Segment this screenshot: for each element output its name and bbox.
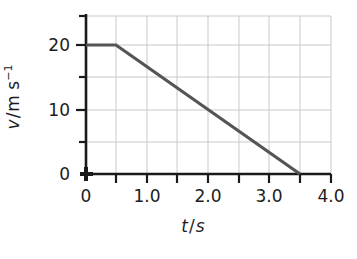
y-axis-separator: / [3, 112, 23, 120]
x-tick-label-0: 0 [81, 188, 92, 205]
y-axis-unit: m s [3, 81, 23, 112]
x-tick-label-2: 2.0 [194, 188, 221, 205]
x-tick-label-4: 4.0 [317, 188, 344, 205]
x-axis-title: t/s [181, 216, 204, 236]
gridlines [86, 16, 331, 174]
velocity-time-chart: 0 1.0 2.0 3.0 4.0 0 10 20 t/s v/m s−1 [0, 0, 357, 259]
y-tick-label-20: 20 [28, 37, 70, 54]
y-tick-label-0: 0 [28, 166, 70, 183]
x-axis-unit: s [196, 216, 205, 236]
y-axis-unit-exponent: −1 [2, 65, 15, 81]
x-axis-variable: t [181, 216, 188, 236]
axes [80, 14, 331, 176]
y-tick-label-10: 10 [28, 102, 70, 119]
x-tick-label-1: 1.0 [133, 188, 160, 205]
x-tick-label-3: 3.0 [255, 188, 282, 205]
x-axis-ticks [116, 174, 331, 183]
y-axis-title: v/m s−1 [3, 65, 23, 130]
y-axis-variable: v [3, 119, 23, 129]
y-axis-ticks [76, 16, 86, 142]
origin-marker [80, 167, 93, 181]
